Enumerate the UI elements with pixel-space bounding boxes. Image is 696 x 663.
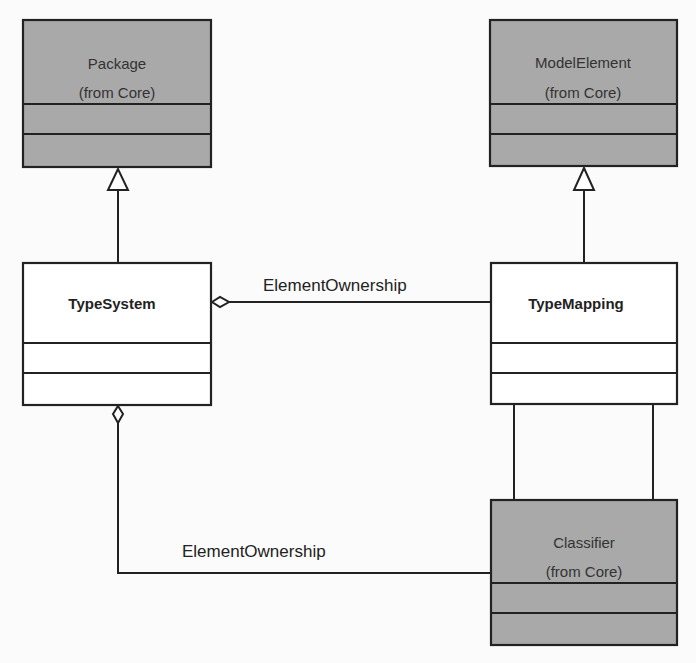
class-name: TypeSystem [68,295,155,312]
association-typemapping-classifier [514,404,653,500]
class-classifier[interactable]: Classifier (from Core) [491,500,677,645]
uml-class-diagram: Package (from Core) ModelElement (from C… [0,0,696,663]
class-type-system[interactable]: TypeSystem [23,263,211,405]
class-origin: (from Core) [545,84,622,101]
class-model-element[interactable]: ModelElement (from Core) [490,20,677,166]
class-name: ModelElement [535,54,632,71]
generalization-arrowhead-icon [574,168,594,190]
class-origin: (from Core) [546,563,623,580]
association-label-bottom: ElementOwnership [182,542,326,561]
class-name: TypeMapping [528,295,624,312]
class-name: Classifier [553,534,615,551]
class-package[interactable]: Package (from Core) [23,20,211,167]
class-type-mapping[interactable]: TypeMapping [491,263,677,404]
association-label-top: ElementOwnership [263,276,407,295]
generalization-typemapping-modelelement [574,168,594,263]
aggregation-diamond-icon [113,406,123,423]
aggregation-diamond-icon [212,297,229,307]
generalization-arrowhead-icon [108,169,128,190]
class-origin: (from Core) [79,84,156,101]
aggregation-typesystem-typemapping [212,297,491,307]
class-name: Package [88,55,146,72]
generalization-typesystem-package [108,169,128,263]
